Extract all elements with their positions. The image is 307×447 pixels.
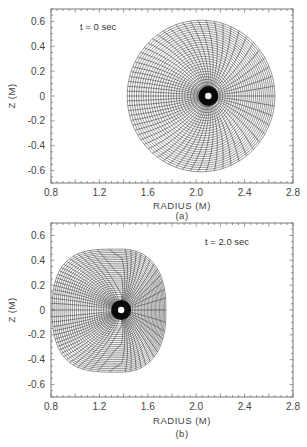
flux-mesh (127, 20, 275, 172)
x-axis-label: RADIUS (M) (153, 415, 211, 426)
y-tick-label: -0.6 (28, 165, 46, 176)
y-tick-label: -0.6 (28, 379, 46, 390)
y-tick-label: -0.2 (28, 329, 46, 340)
x-tick-label: 1.6 (141, 187, 155, 198)
flux-mesh (52, 249, 166, 372)
magnetic-axis-dot (118, 307, 124, 313)
y-axis-label: Z (M) (6, 83, 17, 108)
y-tick-label: 0 (39, 91, 45, 102)
x-tick-label: 0.8 (44, 187, 58, 198)
time-annotation: t = 0 sec (80, 21, 116, 32)
x-tick-label: 2.0 (189, 401, 203, 412)
magnetic-axis-dot (205, 93, 211, 99)
panel-caption: (a) (175, 210, 188, 221)
y-tick-label: 0.2 (31, 66, 45, 77)
x-tick-label: 2.8 (286, 401, 300, 412)
figure: 0.81.21.62.02.42.80.60.40.20-0.2-0.4-0.6… (0, 0, 307, 447)
x-tick-label: 2.8 (286, 187, 300, 198)
y-tick-label: 0.4 (31, 255, 45, 266)
x-tick-label: 1.2 (92, 401, 106, 412)
x-tick-label: 1.2 (92, 187, 106, 198)
x-tick-label: 0.8 (44, 401, 58, 412)
y-axis-label: Z (M) (6, 297, 17, 322)
panel-a-plot: 0.81.21.62.02.42.80.60.40.20-0.2-0.4-0.6… (6, 9, 300, 221)
y-tick-label: -0.2 (28, 115, 46, 126)
y-tick-label: 0.2 (31, 280, 45, 291)
y-tick-label: 0.6 (31, 16, 45, 27)
time-annotation: t = 2.0 sec (205, 236, 249, 247)
y-tick-label: 0.4 (31, 41, 45, 52)
panel-b-plot: 0.81.21.62.02.42.80.60.40.20-0.2-0.4-0.6… (6, 223, 300, 439)
y-tick-label: 0.6 (31, 230, 45, 241)
x-tick-label: 2.0 (189, 187, 203, 198)
y-tick-label: -0.4 (28, 354, 46, 365)
x-tick-label: 2.4 (238, 187, 252, 198)
panel-caption: (b) (175, 428, 188, 439)
y-tick-label: -0.4 (28, 140, 46, 151)
x-tick-label: 1.6 (141, 401, 155, 412)
y-tick-label: 0 (39, 305, 45, 316)
x-tick-label: 2.4 (238, 401, 252, 412)
